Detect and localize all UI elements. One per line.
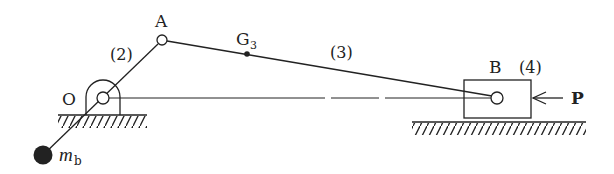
ground-right [412,122,586,135]
label-g: G [236,29,250,49]
label-link-2: (2) [110,45,133,64]
pivot-o-joint [97,92,109,104]
label-mass-sub: b [74,154,82,168]
slider-crank-diagram: O A (2) G 3 (3) B (4) P m b [0,0,614,174]
label-g-sub: 3 [250,39,257,52]
label-a: A [154,11,168,31]
label-link-4: (4) [519,58,542,77]
force-arrow-icon [533,92,563,104]
joint-b [491,92,503,104]
joint-a [157,35,167,45]
label-mass-m: m [59,144,73,165]
ground-left [58,115,147,128]
balance-mass-ball [34,146,53,165]
label-force-p: P [571,88,584,108]
label-o: O [62,89,76,109]
center-of-gravity-dot [244,51,250,57]
label-link-3: (3) [330,43,353,62]
label-b: B [489,57,502,77]
